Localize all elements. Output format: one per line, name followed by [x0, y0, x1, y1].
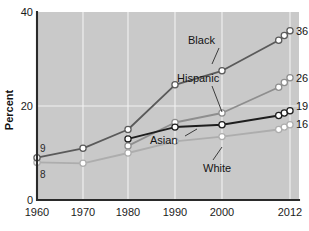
data-point-asian-1980: [125, 136, 131, 142]
x-tick-label-1960: 1960: [25, 206, 49, 218]
end-value-label-black: 36: [296, 25, 308, 37]
data-point-black-2012: [287, 28, 293, 34]
y-axis-ticks: 02040: [21, 6, 33, 206]
start-value-label-white: 8: [40, 169, 46, 180]
data-point-asian-2000: [219, 122, 225, 128]
end-value-label-asian: 19: [296, 100, 308, 112]
data-point-asian-2012: [287, 108, 293, 114]
data-point-black-2010: [276, 37, 282, 43]
end-value-label-white: 16: [296, 118, 308, 130]
data-point-black-1970: [80, 145, 86, 151]
x-tick-label-1990: 1990: [163, 206, 187, 218]
y-tick-label-0: 0: [27, 194, 33, 206]
data-point-hispanic-2011: [281, 79, 287, 85]
data-point-black-1980: [125, 126, 131, 132]
series-label-black: Black: [188, 34, 215, 46]
series-label-hispanic: Hispanic: [177, 72, 220, 84]
x-tick-label-1980: 1980: [116, 206, 140, 218]
data-point-hispanic-1980: [125, 143, 131, 149]
data-point-white-1980: [125, 150, 131, 156]
series-label-asian: Asian: [150, 134, 178, 146]
y-axis-label: Percent: [3, 89, 15, 130]
start-value-label-black: 9: [40, 143, 46, 154]
y-tick-label-40: 40: [21, 6, 33, 18]
x-tick-label-2012: 2012: [278, 206, 302, 218]
x-tick-label-1970: 1970: [71, 206, 95, 218]
data-point-asian-1990: [172, 124, 178, 130]
x-tick-label-2000: 2000: [210, 206, 234, 218]
data-point-black-2011: [281, 32, 287, 38]
x-axis-ticks: 196019701980199020002012: [25, 206, 302, 218]
chart-container: 02040 196019701980199020002012 Percent 9…: [0, 0, 309, 231]
end-value-label-hispanic: 26: [296, 72, 308, 84]
data-point-hispanic-2010: [276, 84, 282, 90]
data-point-white-2012: [287, 122, 293, 128]
series-label-white: White: [203, 162, 231, 174]
data-point-white-2000: [219, 134, 225, 140]
data-point-black-2000: [219, 68, 225, 74]
data-point-hispanic-2012: [287, 75, 293, 81]
y-tick-label-20: 20: [21, 100, 33, 112]
data-point-white-1970: [80, 160, 86, 166]
line-chart-figure: 02040 196019701980199020002012 Percent 9…: [0, 0, 309, 231]
